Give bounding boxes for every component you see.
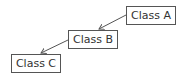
edge-a-to-b [99, 15, 126, 29]
node-label: Class C [16, 57, 56, 70]
node-class-b: Class B [68, 30, 118, 49]
node-class-a: Class A [126, 6, 176, 25]
node-class-c: Class C [11, 54, 61, 73]
node-label: Class A [131, 9, 171, 22]
edge-b-to-c [41, 40, 68, 53]
node-label: Class B [73, 33, 113, 46]
